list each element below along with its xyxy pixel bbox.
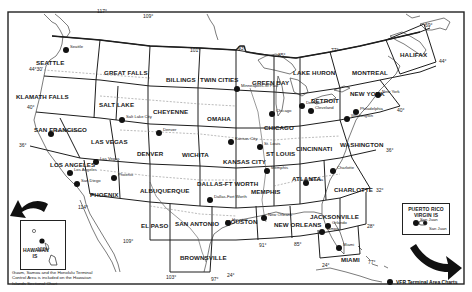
- meridian-label: 117°: [97, 8, 107, 14]
- meridian-label: 77°: [368, 259, 376, 265]
- terminal-area-city-label: Los Angeles: [74, 167, 97, 172]
- terminal-area-marker-icon: [207, 197, 213, 203]
- terminal-area-city-label: St. Louis: [264, 141, 280, 146]
- terminal-area-marker-icon: [344, 116, 350, 122]
- terminal-area-marker-icon: [269, 111, 275, 117]
- terminal-area-marker-icon: [48, 131, 54, 137]
- sectional-area-label: JACKSONVILLE: [310, 213, 359, 220]
- terminal-area-city-label: Orlando: [332, 220, 347, 225]
- sectional-area-label: CHARLOTTE: [334, 186, 373, 193]
- terminal-area-city-label: San Francisco: [55, 128, 82, 133]
- terminal-area-city-label: Washington: [351, 113, 373, 118]
- sectional-chart-index-map: HAWAIIAN IS Guam, Samoa and the Honolulu…: [0, 0, 472, 292]
- meridian-label: 93°: [238, 45, 246, 51]
- sectional-area-label: KLAMATH FALLS: [16, 93, 69, 100]
- parallel-label: 24°: [227, 272, 235, 278]
- terminal-area-marker-icon: [111, 175, 117, 181]
- parallel-label: 32°: [376, 187, 384, 193]
- parallel-label: 28°: [367, 223, 375, 229]
- sectional-area-label: SALT LAKE: [99, 101, 134, 108]
- parallel-label: 44°: [439, 58, 447, 64]
- sectional-area-label: TWIN CITIES: [200, 76, 239, 83]
- meridian-label: 77°: [331, 47, 339, 53]
- terminal-area-city-label: Salt Lake City: [126, 114, 152, 119]
- sectional-area-label: WICHITA: [182, 151, 209, 158]
- parallel-label: 44°30': [29, 66, 43, 72]
- terminal-area-city-label: Cleveland: [315, 105, 334, 110]
- parallel-label: 40°: [397, 107, 405, 113]
- terminal-area-marker-icon: [74, 181, 80, 187]
- sectional-area-label: ST LOUIS: [266, 150, 295, 157]
- meridian-label: 97°: [211, 276, 219, 282]
- terminal-area-city-label: Las Vegas: [100, 156, 120, 161]
- terminal-area-city-label: Tampa: [326, 226, 339, 231]
- terminal-area-marker-icon: [257, 144, 263, 150]
- sectional-area-label: KANSAS CITY: [223, 158, 266, 165]
- sectional-area-label: LAKE HURON: [293, 69, 335, 76]
- terminal-area-marker-icon: [228, 139, 234, 145]
- sectional-area-label: CINCINNATI: [296, 145, 332, 152]
- parallel-label: 36°: [386, 147, 394, 153]
- terminal-area-city-label: Philadelphia: [360, 106, 383, 111]
- terminal-area-city-label: New York: [382, 89, 400, 94]
- terminal-area-city-label: San Diego: [81, 178, 101, 183]
- sectional-area-label: CHEYENNE: [153, 108, 188, 115]
- hawaii-note: Guam, Samoa and the Honolulu Terminal Co…: [12, 270, 98, 286]
- terminal-area-marker-icon: [93, 159, 99, 165]
- sectional-area-label: SEATTLE: [36, 59, 64, 66]
- terminal-area-city-label: Chicago: [276, 108, 291, 113]
- sectional-area-label: BROWNSVILLE: [180, 254, 227, 261]
- terminal-area-city-label: Denver: [163, 127, 177, 132]
- terminal-area-marker-icon: [330, 168, 336, 174]
- meridian-label: 109°: [123, 238, 133, 244]
- sectional-area-label: OMAHA: [207, 115, 231, 122]
- parallel-label: 24°: [322, 262, 330, 268]
- meridian-label: 109°: [143, 13, 153, 19]
- sectional-area-label: MEMPHIS: [251, 188, 281, 195]
- terminal-area-city-label: New Orleans: [268, 212, 292, 217]
- terminal-area-marker-icon: [319, 229, 325, 235]
- meridian-label: 101°: [190, 47, 200, 53]
- terminal-area-city-label: Charlotte: [337, 165, 354, 170]
- meridian-label: 85°: [294, 241, 302, 247]
- sectional-area-label: PHOENIX: [90, 191, 119, 198]
- terminal-area-city-label: Houston: [232, 217, 248, 222]
- sectional-area-label: WASHINGTON: [340, 141, 384, 148]
- sectional-area-label: DALLAS-FT WORTH: [197, 180, 258, 187]
- parallel-label: 40°: [27, 104, 35, 110]
- terminal-area-marker-icon: [308, 108, 314, 114]
- meridian-label: 91°: [259, 242, 267, 248]
- terminal-area-city-label: Memphis: [271, 165, 288, 170]
- terminal-area-marker-icon: [299, 103, 305, 109]
- terminal-area-city-label: Atlanta: [310, 177, 323, 182]
- terminal-area-marker-icon: [261, 215, 267, 221]
- sectional-area-label: LAS VEGAS: [91, 138, 128, 145]
- sectional-area-label: MIAMI: [341, 256, 360, 263]
- sectional-area-label: CHICAGO: [264, 124, 294, 131]
- terminal-area-city-label: Dallas-Fort Worth: [214, 194, 247, 199]
- sectional-area-label: ALBUQUERQUE: [140, 187, 190, 194]
- sectional-area-label: NEW ORLEANS: [274, 221, 322, 228]
- meridian-label: 69°: [425, 22, 433, 28]
- sectional-area-label: EL PASO: [141, 222, 168, 229]
- terminal-area-marker-icon: [303, 180, 309, 186]
- terminal-area-marker-icon: [225, 220, 231, 226]
- san-juan-label: San Juan: [429, 226, 447, 231]
- sectional-area-label: DENVER: [137, 150, 163, 157]
- terminal-area-city-label: Seattle: [70, 44, 83, 49]
- terminal-area-symbol-icon: [387, 279, 393, 285]
- terminal-area-marker-icon: [63, 47, 69, 53]
- terminal-area-city-label: Minneapolis-St Paul: [241, 83, 278, 88]
- terminal-area-marker-icon: [119, 117, 125, 123]
- terminal-area-marker-icon: [413, 220, 419, 226]
- meridian-label: 85°: [278, 52, 286, 58]
- terminal-area-marker-icon: [264, 168, 270, 174]
- terminal-area-marker-icon: [336, 245, 342, 251]
- hawaii-inset: HAWAIIAN IS: [20, 220, 66, 270]
- legend-label: VFR Terminal Area Charts: [396, 279, 457, 285]
- terminal-area-marker-icon: [67, 170, 73, 176]
- sectional-area-label: BILLINGS: [166, 76, 196, 83]
- terminal-area-city-label: Phoenix: [118, 172, 133, 177]
- sectional-area-label: SAN ANTONIO: [175, 220, 219, 227]
- sectional-area-label: GREAT FALLS: [104, 69, 148, 76]
